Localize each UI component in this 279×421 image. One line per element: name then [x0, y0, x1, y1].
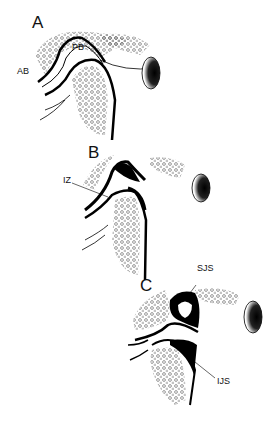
annotation-iz: IZ — [63, 175, 71, 185]
annotation-sjs: SJS — [197, 263, 214, 273]
panel-label-a: A — [32, 13, 43, 33]
annotation-ab: AB — [17, 66, 29, 76]
panel-label-c: C — [140, 276, 152, 296]
panel-b-drawing — [72, 155, 210, 280]
panel-a-drawing — [35, 32, 160, 140]
annotation-pb: PB — [72, 42, 84, 52]
panel-c-drawing — [128, 285, 262, 405]
annotation-ijs: IJS — [217, 376, 230, 386]
panel-label-b: B — [88, 143, 99, 163]
joint-illustration — [0, 0, 279, 421]
